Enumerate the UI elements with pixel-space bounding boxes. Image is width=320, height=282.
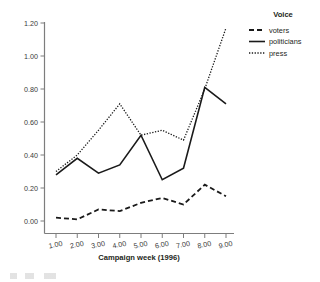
- legend-title: Voice: [273, 10, 293, 19]
- legend-label-press: press: [269, 49, 287, 58]
- x-tick-label: 6.00: [154, 239, 170, 251]
- x-tick-label: 4.00: [111, 239, 127, 251]
- series-line-voters: [56, 185, 226, 220]
- x-axis-ticks: [56, 234, 226, 239]
- y-axis-tick-labels: 0.000.200.400.600.801.001.20: [24, 19, 38, 226]
- page-footer-artifact: [8, 273, 68, 279]
- y-tick-label: 1.20: [24, 19, 38, 28]
- legend: Voice voterspoliticianspress: [249, 10, 302, 58]
- x-tick-label: 5.00: [133, 239, 149, 251]
- x-tick-label: 9.00: [218, 239, 234, 251]
- x-tick-label: 2.00: [69, 239, 85, 251]
- x-tick-label: 7.00: [175, 239, 191, 251]
- y-tick-label: 0.40: [24, 151, 38, 160]
- x-axis-title: Campaign week (1996): [98, 253, 180, 262]
- legend-label-politicians: politicians: [269, 37, 302, 46]
- plot-area: 0.000.200.400.600.801.001.20 1.002.003.0…: [0, 0, 320, 282]
- y-tick-label: 0.60: [24, 118, 38, 127]
- x-axis-tick-labels: 1.002.003.004.005.006.007.008.009.00: [48, 239, 234, 251]
- legend-label-voters: voters: [269, 26, 289, 35]
- line-chart-figure: 0.000.200.400.600.801.001.20 1.002.003.0…: [0, 0, 320, 282]
- data-series-group: [56, 28, 226, 219]
- x-tick-label: 3.00: [90, 239, 106, 251]
- y-tick-label: 0.80: [24, 85, 38, 94]
- series-line-politicians: [56, 87, 226, 179]
- series-line-press: [56, 28, 226, 172]
- x-tick-label: 1.00: [48, 239, 64, 251]
- y-tick-label: 0.20: [24, 184, 38, 193]
- y-tick-label: 0.00: [24, 217, 38, 226]
- x-tick-label: 8.00: [196, 239, 212, 251]
- legend-items: voterspoliticianspress: [249, 26, 302, 58]
- y-tick-label: 1.00: [24, 52, 38, 61]
